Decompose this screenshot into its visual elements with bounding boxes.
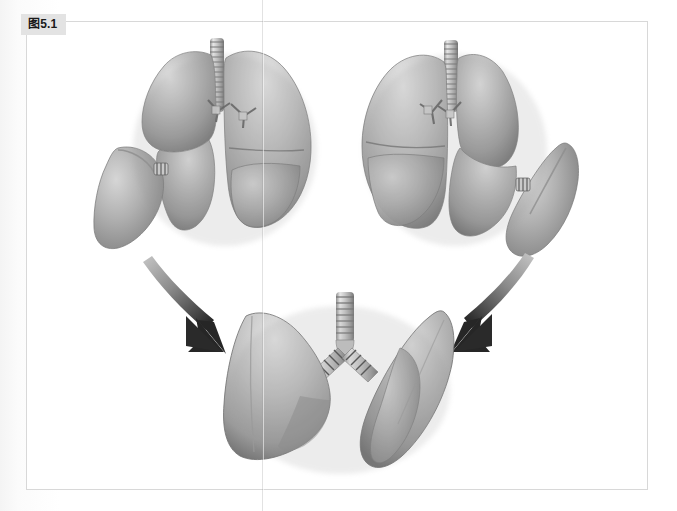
figure-number-badge: 图5.1 [21, 14, 66, 35]
illustration-canvas [0, 0, 677, 511]
arrow-left [143, 256, 226, 354]
figure-page: 图5.1 [0, 0, 677, 511]
arrow-right [450, 253, 534, 354]
lung-illustration-svg [0, 0, 677, 511]
scan-shadow-layer [133, 54, 547, 474]
